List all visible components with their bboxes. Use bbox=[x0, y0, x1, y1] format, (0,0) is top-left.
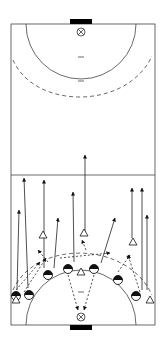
run-arrow bbox=[17, 210, 19, 290]
defender-icon bbox=[146, 296, 154, 303]
attacker-icon bbox=[132, 292, 141, 301]
pass-arrow bbox=[82, 240, 86, 250]
run-arrow bbox=[101, 218, 115, 263]
goal-markers bbox=[77, 28, 85, 321]
pass-arrow bbox=[118, 255, 130, 272]
pass-arrow bbox=[38, 250, 48, 262]
attacker-icon bbox=[44, 271, 53, 280]
run-arrow bbox=[54, 218, 58, 268]
handball-court-diagram bbox=[0, 0, 164, 342]
top-goal bbox=[70, 19, 92, 24]
court-lines bbox=[11, 24, 155, 325]
defender-icon bbox=[39, 231, 47, 238]
pass-arrow bbox=[84, 275, 94, 310]
top-goal-marker-icon bbox=[77, 28, 85, 36]
top-free-throw-line bbox=[13, 56, 152, 97]
defender-icon bbox=[80, 229, 88, 236]
attacker-icon bbox=[90, 265, 99, 274]
attacker-icon bbox=[64, 265, 73, 274]
pass-arrow bbox=[128, 255, 140, 292]
run-arrow bbox=[73, 192, 74, 262]
defender-icon bbox=[77, 268, 85, 275]
attacker-icon bbox=[25, 291, 34, 300]
defender-icon bbox=[129, 238, 137, 245]
court-boundary bbox=[11, 24, 155, 325]
attacker-icon bbox=[114, 276, 123, 285]
bottom-goal bbox=[70, 325, 92, 330]
goals bbox=[70, 19, 92, 330]
pass-arrow bbox=[68, 275, 78, 310]
bottom-goal-marker-icon bbox=[77, 313, 85, 321]
